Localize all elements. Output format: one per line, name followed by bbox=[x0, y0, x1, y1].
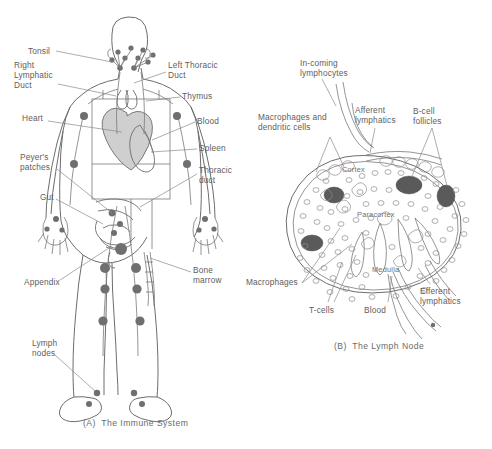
label-spleen: Spleen bbox=[199, 143, 226, 153]
label-medulla: Medulla bbox=[372, 265, 399, 274]
label-peyers-patches: Peyer's patches bbox=[20, 152, 50, 172]
label-gut: Gut bbox=[40, 192, 54, 202]
label-efferent-lymphatics: Efferent lymphatics bbox=[420, 286, 461, 306]
label-left-thoracic-duct: Left Thoracic Duct bbox=[168, 60, 218, 80]
label-afferent-lymphatics: Afferent lymphatics bbox=[355, 105, 396, 125]
caption-panel-b: (B) The Lymph Node bbox=[334, 341, 424, 351]
label-appendix: Appendix bbox=[24, 277, 60, 287]
label-paracortex: Paracortex bbox=[357, 210, 395, 219]
panel-b-illustration bbox=[0, 0, 492, 449]
label-tonsil: Tonsil bbox=[28, 46, 50, 56]
label-lymph-nodes: Lymph nodes bbox=[32, 338, 57, 358]
label-b-cell-follicles: B-cell follicles bbox=[413, 106, 442, 126]
label-incoming-lymphocytes: In-coming lymphocytes bbox=[300, 58, 348, 78]
label-heart: Heart bbox=[22, 113, 43, 123]
label-blood: Blood bbox=[197, 116, 219, 126]
caption-panel-a: (A) The Immune System bbox=[83, 418, 188, 428]
figure-root: Tonsil Right Lymphatic Duct Heart Peyer'… bbox=[0, 0, 492, 449]
label-t-cells: T-cells bbox=[309, 305, 334, 315]
label-thymus: Thymus bbox=[182, 91, 212, 101]
label-cortex: Cortex bbox=[342, 165, 365, 174]
label-thoracic-duct: Thoracic duct bbox=[199, 165, 232, 185]
label-macrophages: Macrophages bbox=[246, 277, 298, 287]
label-bone-marrow: Bone marrow bbox=[193, 265, 222, 285]
label-macrophages-dendritic: Macrophages and dendritic cells bbox=[258, 112, 327, 132]
label-right-lymphatic-duct: Right Lymphatic Duct bbox=[14, 60, 53, 91]
label-blood: Blood bbox=[364, 305, 386, 315]
